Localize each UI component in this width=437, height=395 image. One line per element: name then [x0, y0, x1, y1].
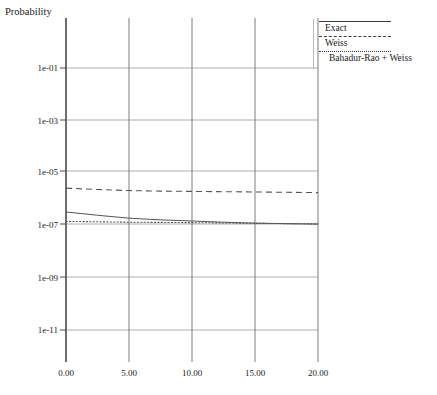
vertical-gridlines [129, 18, 318, 362]
plot-svg [66, 18, 326, 366]
x-tick-label: 5.00 [109, 368, 149, 378]
plot-area [66, 18, 318, 357]
legend-label: Weiss [325, 38, 347, 49]
legend-label: Exact [325, 23, 347, 34]
x-tick-label: 0.00 [46, 368, 86, 378]
legend-divider [313, 19, 314, 69]
x-tick-label: 10.00 [172, 368, 212, 378]
x-tick-label: 20.00 [298, 368, 338, 378]
x-tick-label: 15.00 [235, 368, 275, 378]
legend-label: Bahadur-Rao + Weiss [329, 53, 412, 64]
chart-root: Probability 1e-01 1e-03 1e-05 1e-07 1e-0… [0, 0, 437, 395]
chart-legend: Exact Weiss Bahadur-Rao + Weiss [313, 19, 437, 69]
